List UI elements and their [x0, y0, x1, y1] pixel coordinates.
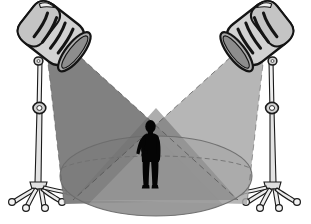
stage-spotlight-illustration: Black and white line drawing of two stud… [0, 0, 311, 224]
stand-left-caster-3 [42, 205, 49, 212]
stand-right-caster-2 [257, 205, 264, 212]
illustration-canvas [0, 0, 311, 224]
stand-right-collar-hole [269, 106, 274, 111]
stand-left-caster-2 [23, 205, 30, 212]
stand-left-caster-1 [9, 199, 16, 206]
stand-right-knob-hole [271, 60, 274, 63]
stand-right-caster-3 [276, 205, 283, 212]
stand-left-collar-hole [37, 106, 42, 111]
stand-left-knob-hole [37, 60, 40, 63]
stand-right-caster-4 [294, 199, 301, 206]
